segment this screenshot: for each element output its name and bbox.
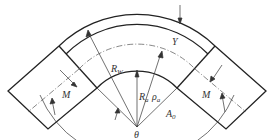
- label-theta: θ: [134, 129, 139, 140]
- label-ra: Ra: [138, 91, 149, 104]
- label-rho: ρa: [151, 91, 161, 104]
- label-m-left: M: [61, 89, 71, 100]
- label-m-right: M: [201, 89, 211, 100]
- label-a0: A0: [165, 108, 176, 121]
- right-straight-section: [177, 46, 266, 129]
- pipe-bend-diagram: RW Y Ra ρa M M A0 θ: [0, 0, 273, 140]
- label-rw: RW: [110, 63, 124, 76]
- outer-arc-inner: [66, 24, 208, 54]
- label-y: Y: [172, 36, 179, 47]
- left-straight-section: [8, 46, 97, 129]
